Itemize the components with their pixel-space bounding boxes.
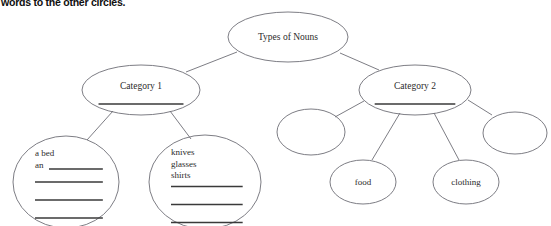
word-item: knives: [171, 147, 197, 159]
connector-line: [335, 101, 364, 117]
node-label-category2: Category 2: [359, 81, 471, 91]
node-ellipse-cat1-child-2[interactable]: [149, 135, 261, 226]
word-item: shirts: [171, 170, 197, 182]
blank-write-in-lines-group: [35, 104, 455, 223]
connector-line: [186, 52, 237, 72]
node-label-category1: Category 1: [82, 81, 200, 91]
word-item: an: [35, 160, 54, 172]
word-list-cat1-child-1: a bedan: [35, 148, 54, 171]
node-label-cat2-child-3: clothing: [433, 177, 499, 187]
connector-line: [340, 53, 379, 70]
node-ellipse-cat1-child-1[interactable]: [13, 136, 119, 226]
node-ellipse-cat2-child-1[interactable]: [277, 109, 345, 155]
connector-line: [372, 113, 400, 160]
node-ellipse-cat2-child-4[interactable]: [483, 112, 547, 154]
node-label-cat2-child-2: food: [330, 177, 396, 187]
worksheet-canvas: words to the other circles. Types of Nou…: [0, 0, 551, 226]
word-list-cat1-child-2: knivesglassesshirts: [171, 147, 197, 182]
connector-lines-group: [87, 52, 492, 160]
node-label-root: Types of Nouns: [228, 32, 348, 42]
ellipse-nodes-group: [13, 12, 547, 226]
word-item: a bed: [35, 148, 54, 160]
connector-line: [87, 111, 113, 140]
connector-line: [468, 100, 492, 115]
connector-line: [434, 113, 459, 160]
word-item: glasses: [171, 159, 197, 171]
connector-line: [170, 111, 191, 139]
